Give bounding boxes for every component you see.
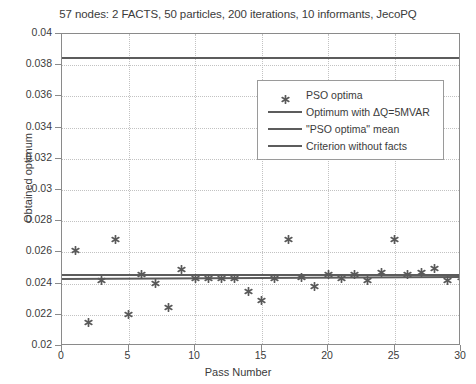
chart-figure: 57 nodes: 2 FACTS, 50 particles, 200 ite… bbox=[0, 0, 476, 384]
x-axis-label: Pass Number bbox=[0, 366, 476, 378]
y-tick-mark bbox=[55, 220, 61, 221]
scatter-point bbox=[297, 273, 306, 282]
legend-label: Optimum with ΔQ=5MVAR bbox=[306, 106, 430, 118]
scatter-point bbox=[177, 265, 186, 274]
scatter-point bbox=[217, 274, 226, 283]
scatter-point bbox=[363, 276, 372, 285]
legend-label: Criterion without facts bbox=[306, 140, 407, 152]
scatter-point bbox=[417, 268, 426, 277]
scatter-point bbox=[310, 282, 319, 291]
scatter-point bbox=[164, 303, 173, 312]
asterisk-marker-icon bbox=[281, 90, 290, 99]
scatter-point bbox=[284, 235, 293, 244]
y-tick-label: 0.022 bbox=[26, 307, 52, 319]
gridline-horizontal bbox=[62, 190, 459, 191]
scatter-point bbox=[84, 318, 93, 327]
scatter-point bbox=[457, 273, 461, 282]
legend-item: Criterion without facts bbox=[264, 137, 437, 154]
x-tick-label: 20 bbox=[321, 349, 333, 361]
legend-item: PSO optima bbox=[264, 86, 437, 103]
gridline-vertical bbox=[129, 34, 130, 344]
gridline-horizontal bbox=[62, 284, 459, 285]
scatter-point bbox=[204, 274, 213, 283]
scatter-point bbox=[151, 279, 160, 288]
y-tick-label: 0.02 bbox=[32, 338, 52, 350]
y-tick-mark bbox=[55, 127, 61, 128]
scatter-point bbox=[137, 270, 146, 279]
chart-title: 57 nodes: 2 FACTS, 50 particles, 200 ite… bbox=[0, 8, 476, 20]
legend-line-swatch bbox=[268, 128, 302, 130]
gridline-horizontal bbox=[62, 252, 459, 253]
y-tick-mark bbox=[55, 95, 61, 96]
legend-label: PSO optima bbox=[306, 89, 363, 101]
scatter-point bbox=[97, 276, 106, 285]
y-tick-mark bbox=[55, 251, 61, 252]
legend-symbol bbox=[264, 90, 306, 99]
y-tick-label: 0.04 bbox=[32, 26, 52, 38]
x-tick-label: 15 bbox=[255, 349, 267, 361]
scatter-point bbox=[350, 270, 359, 279]
y-tick-label: 0.024 bbox=[26, 276, 52, 288]
gridline-horizontal bbox=[62, 315, 459, 316]
scatter-point bbox=[71, 246, 80, 255]
legend-item: Optimum with ΔQ=5MVAR bbox=[264, 103, 437, 120]
legend-symbol bbox=[264, 128, 306, 130]
x-tick-label: 5 bbox=[125, 349, 131, 361]
y-tick-label: 0.03 bbox=[32, 182, 52, 194]
legend-label: "PSO optima" mean bbox=[306, 123, 399, 135]
legend-symbol bbox=[264, 111, 306, 113]
y-tick-mark bbox=[55, 283, 61, 284]
y-tick-label: 0.038 bbox=[26, 57, 52, 69]
y-axis-label: Obtained optimum bbox=[22, 88, 34, 268]
gridline-vertical bbox=[195, 34, 196, 344]
scatter-point bbox=[390, 235, 399, 244]
scatter-point bbox=[324, 270, 333, 279]
scatter-point bbox=[443, 276, 452, 285]
scatter-point bbox=[403, 270, 412, 279]
scatter-point bbox=[377, 268, 386, 277]
y-tick-mark bbox=[55, 158, 61, 159]
y-tick-mark bbox=[55, 314, 61, 315]
x-tick-label: 30 bbox=[454, 349, 466, 361]
scatter-point bbox=[270, 274, 279, 283]
scatter-point bbox=[230, 274, 239, 283]
legend-line-swatch bbox=[268, 111, 302, 113]
y-tick-mark bbox=[55, 189, 61, 190]
legend-item: "PSO optima" mean bbox=[264, 120, 437, 137]
x-tick-label: 25 bbox=[388, 349, 400, 361]
x-tick-label: 0 bbox=[58, 349, 64, 361]
scatter-point bbox=[257, 296, 266, 305]
scatter-point bbox=[337, 274, 346, 283]
chart-legend: PSO optimaOptimum with ΔQ=5MVAR"PSO opti… bbox=[257, 80, 444, 160]
scatter-point bbox=[111, 235, 120, 244]
scatter-point bbox=[191, 274, 200, 283]
reference-line bbox=[62, 57, 460, 59]
legend-symbol bbox=[264, 145, 306, 147]
scatter-point bbox=[430, 264, 439, 273]
gridline-horizontal bbox=[62, 221, 459, 222]
gridline-horizontal bbox=[62, 65, 459, 66]
y-tick-mark bbox=[55, 64, 61, 65]
y-tick-mark bbox=[55, 33, 61, 34]
legend-line-swatch bbox=[268, 145, 302, 147]
scatter-point bbox=[124, 310, 133, 319]
scatter-point bbox=[244, 287, 253, 296]
x-tick-label: 10 bbox=[188, 349, 200, 361]
